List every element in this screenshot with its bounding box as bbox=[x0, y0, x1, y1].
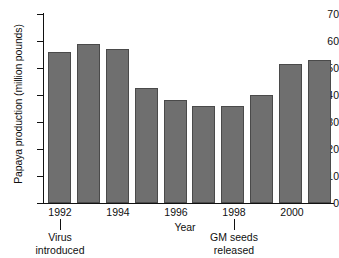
x-tick-label-1992: 1992 bbox=[32, 206, 88, 218]
x-tick-label-2000: 2000 bbox=[264, 206, 320, 218]
bar-1996 bbox=[164, 100, 187, 203]
x-tick-label-1998: 1998 bbox=[206, 206, 262, 218]
annotation-virus-line1: Virus bbox=[12, 231, 108, 244]
x-tick-label-1994: 1994 bbox=[90, 206, 146, 218]
plot-area bbox=[44, 14, 333, 203]
bar-2001 bbox=[308, 60, 331, 203]
annotation-gm-line2: released bbox=[186, 244, 282, 257]
bar-1995 bbox=[135, 88, 158, 203]
bar-chart: Papaya production (million pounds) 0 10 … bbox=[0, 0, 339, 258]
bar-1997 bbox=[192, 106, 215, 203]
annotation-gm-line1: GM seeds bbox=[186, 231, 282, 244]
bar-2000 bbox=[279, 64, 302, 203]
bar-1999 bbox=[250, 95, 273, 203]
annotation-leader-virus bbox=[60, 219, 61, 230]
bar-1993 bbox=[77, 44, 100, 203]
y-axis-title: Papaya production (million pounds) bbox=[12, 4, 24, 204]
annotation-virus-line2: introduced bbox=[12, 244, 108, 257]
bar-1994 bbox=[106, 49, 129, 203]
annotation-gm-seeds-released: GM seeds released bbox=[186, 231, 282, 256]
x-tick-label-1996: 1996 bbox=[148, 206, 204, 218]
x-axis-line bbox=[43, 203, 334, 204]
bar-1992 bbox=[48, 52, 71, 203]
annotation-virus-introduced: Virus introduced bbox=[12, 231, 108, 256]
annotation-leader-gm-seeds bbox=[234, 219, 235, 230]
bar-1998 bbox=[221, 106, 244, 203]
